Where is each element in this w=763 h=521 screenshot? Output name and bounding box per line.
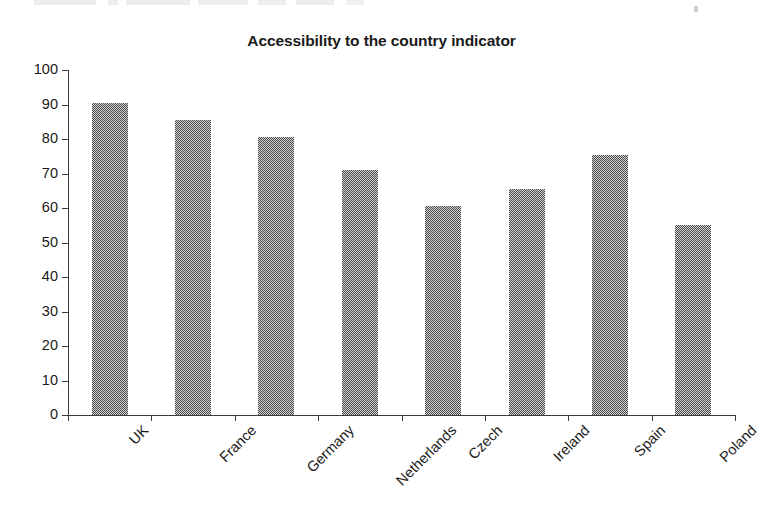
y-tick-mark bbox=[62, 346, 68, 347]
x-label-ireland: Ireland bbox=[550, 422, 593, 465]
bar-fill-pattern bbox=[175, 120, 211, 415]
bar-poland[interactable] bbox=[675, 225, 711, 415]
bar-fill-pattern bbox=[675, 225, 711, 415]
y-tick-label: 60 bbox=[18, 199, 58, 215]
bar-fill-pattern bbox=[592, 155, 628, 415]
bar-czech[interactable] bbox=[425, 206, 461, 415]
y-tick-mark bbox=[62, 277, 68, 278]
y-tick-mark bbox=[62, 312, 68, 313]
y-tick-mark bbox=[62, 381, 68, 382]
bar-fill-pattern bbox=[509, 189, 545, 415]
y-tick-mark bbox=[62, 70, 68, 71]
y-tick-label: 90 bbox=[18, 96, 58, 112]
bar-germany[interactable] bbox=[258, 137, 294, 415]
x-tick-mark bbox=[235, 415, 236, 421]
y-tick-mark bbox=[62, 243, 68, 244]
bar-ireland[interactable] bbox=[509, 189, 545, 415]
x-tick-mark bbox=[485, 415, 486, 421]
y-tick-label: 30 bbox=[18, 303, 58, 319]
x-tick-mark bbox=[68, 415, 69, 421]
y-tick-mark bbox=[62, 174, 68, 175]
bar-netherlands[interactable] bbox=[342, 170, 378, 415]
y-tick-label: 10 bbox=[18, 372, 58, 388]
bar-fill-pattern bbox=[92, 103, 128, 415]
y-tick-mark bbox=[62, 105, 68, 106]
y-tick-label: 0 bbox=[18, 406, 58, 422]
x-tick-mark bbox=[402, 415, 403, 421]
bar-fill-pattern bbox=[258, 137, 294, 415]
x-tick-mark bbox=[318, 415, 319, 421]
x-label-uk: UK bbox=[126, 422, 152, 448]
x-label-poland: Poland bbox=[717, 422, 760, 465]
x-label-netherlands: Netherlands bbox=[393, 422, 460, 489]
y-axis-line bbox=[68, 70, 69, 415]
y-tick-mark bbox=[62, 208, 68, 209]
x-tick-mark bbox=[652, 415, 653, 421]
chart-title: Accessibility to the country indicator bbox=[0, 32, 763, 50]
y-tick-label: 100 bbox=[18, 61, 58, 77]
x-label-france: France bbox=[216, 422, 259, 465]
y-tick-mark bbox=[62, 139, 68, 140]
bar-fill-pattern bbox=[342, 170, 378, 415]
bar-france[interactable] bbox=[175, 120, 211, 415]
x-tick-mark bbox=[735, 415, 736, 421]
x-label-czech: Czech bbox=[465, 422, 505, 462]
y-tick-label: 40 bbox=[18, 268, 58, 284]
x-label-germany: Germany bbox=[304, 422, 357, 475]
scan-artifact-speck bbox=[694, 6, 698, 12]
bar-uk[interactable] bbox=[92, 103, 128, 415]
bar-fill-pattern bbox=[425, 206, 461, 415]
y-tick-label: 80 bbox=[18, 130, 58, 146]
y-tick-label: 20 bbox=[18, 337, 58, 353]
plot-area: 0102030405060708090100 UKFranceGermanyNe… bbox=[68, 70, 735, 415]
y-tick-label: 70 bbox=[18, 165, 58, 181]
y-tick-label: 50 bbox=[18, 234, 58, 250]
x-label-spain: Spain bbox=[631, 422, 669, 460]
bar-spain[interactable] bbox=[592, 155, 628, 415]
x-tick-mark bbox=[568, 415, 569, 421]
x-tick-mark bbox=[151, 415, 152, 421]
scan-artifact-top-text-sliver bbox=[34, 0, 364, 5]
